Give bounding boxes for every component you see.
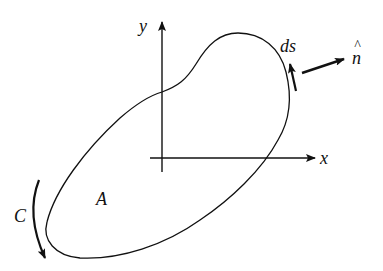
curve-orientation-arrow [33, 180, 45, 258]
diagram-canvas: y x A C ds n ^ [0, 0, 383, 271]
y-axis-label: y [137, 16, 147, 36]
ds-label: ds [280, 36, 296, 56]
closed-curve-c [46, 33, 289, 258]
ds-element-arrow [290, 64, 296, 91]
curve-label-c: C [14, 206, 27, 226]
region-label-a: A [95, 189, 108, 209]
normal-vector-arrow [302, 59, 344, 73]
x-axis-label: x [319, 148, 328, 168]
